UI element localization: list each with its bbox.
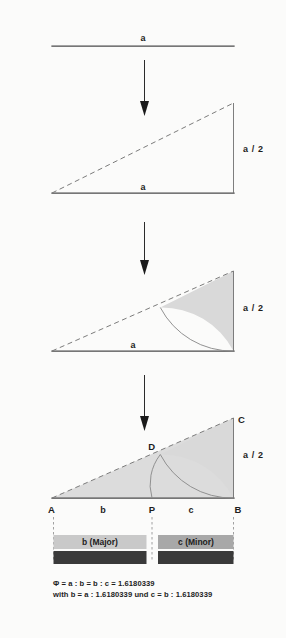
point-label-a: A	[48, 504, 55, 515]
panel-triangle-arc: a a / 2	[52, 271, 264, 351]
arrow-head-icon	[140, 416, 149, 431]
point-label-d: D	[148, 441, 155, 452]
panel-triangle-plain: a a / 2	[52, 103, 264, 193]
panel-construction: C D a / 2	[52, 414, 264, 498]
bar-minor-label: c (Minor)	[178, 537, 214, 547]
comparison-bars: b (Major) c (Minor)	[54, 535, 234, 564]
height-label-a-half: a / 2	[243, 450, 264, 460]
segment-label-a: a	[140, 33, 146, 43]
height-label-a-half: a / 2	[243, 303, 264, 313]
formula-block: Φ = a : b = b : c = 1.6180339 with b = a…	[52, 579, 212, 599]
golden-ratio-diagram: a a a / 2 a a / 2	[0, 0, 286, 638]
point-label-b: B	[235, 504, 242, 515]
arrow-down-3	[140, 375, 149, 431]
bar-major-label: b (Major)	[82, 537, 118, 547]
base-label-row: A P B b c	[48, 504, 242, 515]
segment-label-b: b	[100, 505, 106, 515]
bar-major-dark	[54, 551, 147, 564]
height-label-a-half: a / 2	[243, 144, 264, 154]
formula-line-2: with b = a : 1.6180339 und c = b : 1.618…	[52, 590, 212, 599]
arrow-head-icon	[140, 260, 149, 275]
arrow-down-2	[140, 222, 149, 275]
panel-segment: a	[52, 33, 234, 46]
bar-minor-dark	[158, 551, 234, 564]
point-label-c: C	[238, 414, 245, 425]
arrow-down-1	[140, 60, 149, 116]
figure-root: a a a / 2 a a / 2	[0, 0, 286, 638]
base-label-a: a	[140, 182, 146, 192]
shaded-arc-region	[160, 271, 233, 351]
base-label-a: a	[130, 340, 136, 350]
formula-line-1: Φ = a : b = b : c = 1.6180339	[53, 579, 155, 588]
triangle-hypotenuse-dashed	[52, 103, 234, 193]
point-label-p: P	[149, 504, 156, 515]
arrow-head-icon	[140, 101, 149, 116]
segment-label-c: c	[188, 505, 193, 515]
